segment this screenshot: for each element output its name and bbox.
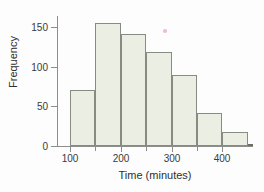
x-tick-label-400: 400 (214, 153, 231, 164)
x-tick-100 (70, 147, 71, 152)
y-tick-label-50: 50 (37, 101, 48, 112)
histogram-bar (146, 52, 171, 146)
y-tick-label-150: 150 (31, 22, 48, 33)
scan-artifact-dot (163, 29, 167, 33)
histogram-bar (95, 23, 120, 146)
x-tick-label-300: 300 (164, 153, 181, 164)
y-tick-label-100: 100 (31, 62, 48, 73)
x-tick-minor-250 (146, 147, 147, 151)
y-tick-0 (51, 146, 57, 147)
bars-container (57, 14, 253, 146)
histogram-tail-segment (248, 144, 253, 146)
y-axis-title: Frequency (7, 12, 19, 112)
x-axis-line (57, 146, 253, 147)
x-axis-title: Time (minutes) (57, 169, 253, 181)
x-tick-minor-150 (95, 147, 96, 151)
histogram-figure: 050100150 100200300400 Time (minutes) Fr… (0, 0, 264, 192)
histogram-bar (70, 90, 95, 146)
y-tick-label-0: 0 (42, 141, 48, 152)
histogram-bar (222, 132, 247, 146)
histogram-bar (172, 75, 197, 146)
histogram-bar (121, 34, 146, 146)
x-tick-label-100: 100 (62, 153, 79, 164)
x-tick-200 (121, 147, 122, 152)
x-tick-300 (172, 147, 173, 152)
histogram-bar (197, 113, 222, 146)
x-tick-label-200: 200 (113, 153, 130, 164)
x-tick-minor-350 (197, 147, 198, 151)
x-tick-400 (222, 147, 223, 152)
